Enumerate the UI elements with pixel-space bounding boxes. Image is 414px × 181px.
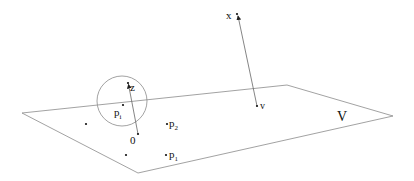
label-v: v — [260, 100, 265, 111]
label-z: z — [130, 81, 135, 93]
neighborhood-circle — [97, 76, 147, 126]
points — [85, 13, 258, 156]
label-pi: pi — [114, 106, 122, 121]
label-x: x — [226, 9, 232, 21]
point-p1 — [165, 154, 167, 156]
label-p2-sub: 2 — [175, 124, 179, 132]
label-o: 0 — [130, 134, 136, 146]
label-p1-sub: 1 — [175, 155, 179, 163]
plane-v — [22, 85, 393, 173]
point-p2 — [166, 123, 168, 125]
point-o — [137, 133, 139, 135]
diagram-canvas: z pi 0 p2 p1 x v V — [0, 0, 414, 181]
label-p2: p2 — [169, 117, 179, 132]
label-plane-v: V — [337, 109, 347, 124]
label-p1: p1 — [169, 148, 179, 163]
point-unlabeled-1 — [85, 123, 87, 125]
point-v — [256, 105, 258, 107]
point-z — [127, 82, 129, 84]
label-pi-sub: i — [120, 113, 122, 121]
point-unlabeled-2 — [125, 154, 127, 156]
point-x — [236, 13, 238, 15]
arrow-v-to-x — [238, 16, 257, 106]
point-pi — [122, 104, 124, 106]
